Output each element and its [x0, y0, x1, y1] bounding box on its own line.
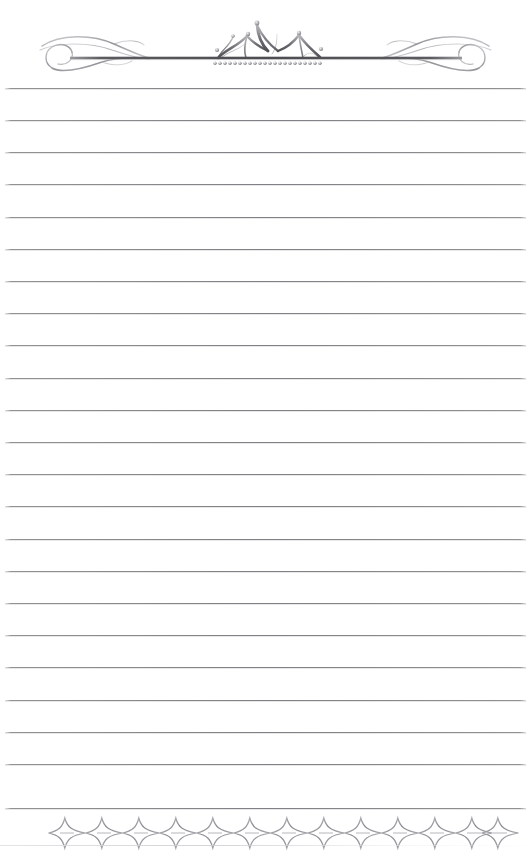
writing-line-2: [5, 120, 526, 121]
crown-icon: [215, 21, 323, 58]
writing-line-12: [5, 442, 526, 443]
header-ornament-svg: [0, 0, 531, 84]
footer-baseline-wash: [0, 845, 531, 846]
writing-line-1: [5, 88, 526, 89]
writing-line-13: [5, 474, 526, 475]
writing-line-20: [5, 700, 526, 701]
crown-and-flourish-header: Decorative crown header ornament: [0, 0, 531, 84]
writing-line-5: [5, 217, 526, 218]
star-border-svg: [0, 804, 531, 864]
crown-pearl-row: [213, 62, 321, 65]
header-rule-bar-shadow: [70, 59, 462, 60]
stationery-page: Decorative crown header ornament: [0, 0, 531, 864]
star-diamond-border: Decorative star border ornament: [0, 804, 531, 864]
writing-line-7: [5, 281, 526, 282]
flourish-right-icon: [381, 37, 491, 71]
writing-line-18: [5, 635, 526, 636]
writing-line-16: [5, 571, 526, 572]
writing-line-14: [5, 506, 526, 507]
writing-line-21: [5, 732, 526, 733]
writing-line-6: [5, 249, 526, 250]
writing-line-17: [5, 603, 526, 604]
writing-lines: Blank ruled writing lines: [0, 0, 531, 864]
flourish-left-icon: [40, 37, 150, 71]
writing-line-19: [5, 667, 526, 668]
header-rule-bar: [70, 57, 462, 60]
writing-line-4: [5, 184, 526, 185]
writing-line-10: [5, 378, 526, 379]
writing-line-15: [5, 539, 526, 540]
writing-line-22: [5, 764, 526, 765]
writing-line-8: [5, 313, 526, 314]
writing-line-9: [5, 345, 526, 346]
star-band: [49, 818, 519, 848]
writing-line-3: [5, 152, 526, 153]
writing-line-11: [5, 410, 526, 411]
